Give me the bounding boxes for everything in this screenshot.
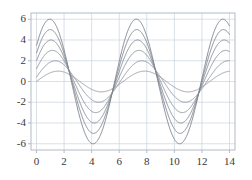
x-tick-label: 0 [22,155,52,167]
y-tick-label: 4 [0,33,26,45]
y-tick-label: -4 [0,116,26,128]
y-tick-label: 6 [0,12,26,24]
x-tick-label: 10 [159,155,189,167]
x-tick-label: 6 [104,155,134,167]
y-tick-label: 2 [0,54,26,66]
y-tick-label: 0 [0,75,26,87]
y-tick-label: -2 [0,95,26,107]
x-tick-label: 8 [132,155,162,167]
x-tick-label: 2 [49,155,79,167]
x-tick-label: 4 [77,155,107,167]
sine-family-plot [0,0,252,180]
x-tick-label: 14 [214,155,244,167]
x-tick-label: 12 [187,155,217,167]
chart-figure: 024681012146420-2-4-6 [0,0,252,180]
y-tick-label: -6 [0,137,26,149]
